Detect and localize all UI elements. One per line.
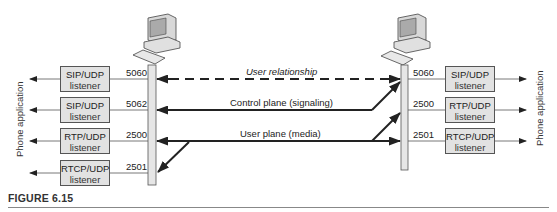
listener-protocol: SIP/UDP [451, 69, 489, 80]
left-port-2501: 2501 [126, 161, 147, 172]
caption-divider [8, 207, 549, 208]
listener-protocol: SIP/UDP [66, 69, 104, 80]
right-rtp-listener-box: RTP/UDP listener [445, 97, 495, 123]
listener-label: listener [61, 111, 109, 122]
listener-label: listener [61, 142, 109, 153]
left-sip-5062-listener-box: SIP/UDP listener [60, 97, 110, 123]
left-port-5060: 5060 [126, 67, 147, 78]
listener-protocol: RTP/UDP [64, 131, 106, 142]
listener-label: listener [446, 80, 494, 91]
left-port-2500: 2500 [126, 129, 147, 140]
right-phone-application-label: Phone application [534, 70, 545, 146]
listener-protocol: RTP/UDP [449, 100, 491, 111]
left-rtcp-listener-box: RTCP/UDP listener [60, 160, 110, 186]
listener-protocol: RTCP/UDP [446, 131, 494, 142]
left-rtp-listener-box: RTP/UDP listener [60, 128, 110, 154]
listener-label: listener [446, 111, 494, 122]
left-host-bar [148, 65, 156, 185]
listener-label: listener [446, 142, 494, 153]
right-port-5060: 5060 [413, 67, 434, 78]
user-plane-label: User plane (media) [240, 128, 321, 139]
left-phone-application-label: Phone application [14, 81, 25, 157]
user-plane-arrow [157, 113, 400, 172]
listener-protocol: SIP/UDP [66, 100, 104, 111]
sip-port-diagram: Phone application SIP/UDP listener SIP/U… [0, 0, 557, 212]
right-port-2501: 2501 [413, 129, 434, 140]
right-port-2500: 2500 [413, 98, 434, 109]
listener-label: listener [61, 80, 109, 91]
user-relationship-label: User relationship [246, 66, 317, 77]
computer-icon-left [133, 14, 180, 64]
computer-icon-right [381, 14, 430, 65]
control-plane-label: Control plane (signaling) [230, 97, 333, 108]
right-rtcp-listener-box: RTCP/UDP listener [445, 128, 495, 154]
left-sip-5060-listener-box: SIP/UDP listener [60, 66, 110, 92]
right-host-bar [401, 65, 408, 170]
right-sip-listener-box: SIP/UDP listener [445, 66, 495, 92]
listener-label: listener [61, 174, 109, 185]
left-port-5062: 5062 [126, 98, 147, 109]
figure-caption: FIGURE 6.15 [8, 192, 73, 204]
listener-protocol: RTCP/UDP [61, 163, 109, 174]
